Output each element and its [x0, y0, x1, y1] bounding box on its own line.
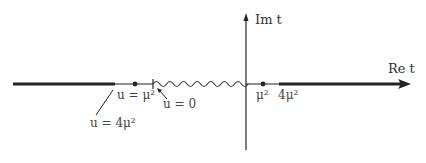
point-mu2 [261, 82, 266, 87]
label-u-mu2: u = μ² [117, 88, 155, 102]
label-mu2: μ² [256, 88, 269, 102]
imag-axis-arrow-icon [244, 13, 249, 21]
wavy-cut [153, 82, 248, 87]
pointer-u-4mu2 [96, 90, 113, 115]
label-u-4mu2: u = 4μ² [90, 116, 136, 130]
label-u-0: u = 0 [163, 97, 196, 111]
complex-t-plane-diagram: Im t Re t u = μ² u = 0 u = 4μ² μ² 4μ² [0, 0, 426, 163]
label-4mu2: 4μ² [278, 88, 298, 102]
real-axis-label: Re t [388, 61, 416, 76]
imag-axis-label: Im t [255, 12, 283, 27]
point-u-mu2 [133, 82, 138, 87]
